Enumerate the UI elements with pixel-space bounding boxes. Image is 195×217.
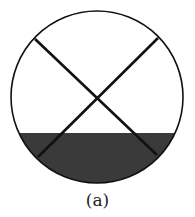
figure-caption: (a) [0, 190, 195, 210]
circle-diagram [0, 0, 195, 217]
